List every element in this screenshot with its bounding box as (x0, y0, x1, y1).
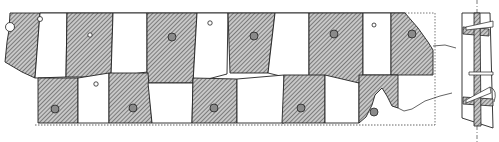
plank-block-l9 (359, 75, 398, 123)
hatched-block (359, 75, 398, 123)
hatched-block (391, 13, 433, 75)
section-core (474, 13, 481, 126)
plank-block-l8 (325, 75, 359, 123)
plank-block-u1 (5, 13, 40, 78)
peg-hole-icon (51, 105, 59, 113)
open-block (325, 75, 359, 123)
nail-hole-icon (372, 23, 376, 27)
technical-drawing (0, 0, 499, 142)
peg-hole-icon (408, 30, 416, 38)
peg-hole-icon (297, 104, 305, 112)
open-block (35, 13, 67, 78)
peg-hole-icon (129, 104, 137, 112)
nail-hole-icon (94, 82, 98, 86)
hatched-block (192, 78, 237, 123)
peg-hole-icon (370, 108, 378, 116)
hatched-block (66, 13, 113, 77)
hatched-block (109, 73, 152, 123)
nail-hole-icon (88, 33, 92, 37)
nail-hole-icon (208, 21, 212, 25)
open-block (148, 83, 193, 123)
plank-block-l6 (237, 75, 284, 123)
break-line (433, 45, 456, 48)
hatched-block (147, 13, 197, 83)
plank-block-l4 (148, 83, 193, 123)
open-block (78, 73, 109, 123)
section-peg (469, 72, 493, 75)
plank-block-u7 (228, 13, 275, 73)
peg-hole-icon (330, 30, 338, 38)
hatched-block (228, 13, 275, 73)
plank-block-l5 (192, 78, 237, 123)
plank-block-l7 (282, 75, 325, 123)
nail-hole-icon (38, 17, 43, 22)
plank-block-l2 (78, 73, 109, 123)
open-block (111, 13, 147, 77)
plank-block-l1 (38, 78, 78, 123)
open-block (237, 75, 284, 123)
open-block (363, 13, 391, 75)
plank-block-u10 (363, 13, 391, 75)
nail-hole-icon (6, 23, 15, 32)
peg-hole-icon (210, 104, 218, 112)
hatched-block (309, 13, 363, 83)
plan-view (5, 13, 456, 125)
peg-hole-icon (250, 32, 258, 40)
plank-block-u5 (147, 13, 197, 83)
plank-block-u9 (309, 13, 363, 83)
plank-block-u11 (391, 13, 433, 75)
cross-section-view (462, 0, 495, 142)
plank-block-u6 (193, 13, 228, 83)
plank-block-u2 (35, 13, 67, 78)
plank-block-u4 (111, 13, 147, 77)
hatched-block (38, 78, 78, 123)
plank-block-l3 (109, 73, 152, 123)
open-block (268, 13, 309, 83)
hatched-block (282, 75, 325, 123)
plank-block-u8 (268, 13, 309, 83)
plank-block-u3 (66, 13, 113, 77)
break-line (398, 93, 452, 111)
peg-hole-icon (168, 33, 176, 41)
